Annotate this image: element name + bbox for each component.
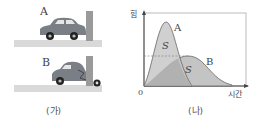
origin-label: 0 <box>138 88 143 97</box>
car-crash-illustration <box>0 0 130 127</box>
curve-a-label: A <box>174 22 181 33</box>
area-a-label: S <box>162 40 169 51</box>
y-axis-label: 힘 <box>130 8 137 19</box>
panel-ga: A B (가) <box>0 0 130 127</box>
area-b-label: S <box>185 64 192 75</box>
panel-na: 힘 A S B S 0 시간 (나) <box>130 0 265 127</box>
caption-ga: (가) <box>46 104 61 117</box>
wall-a <box>86 11 93 41</box>
ground-b <box>14 85 102 92</box>
wall-b <box>86 56 93 86</box>
car-b-crashed-icon <box>52 62 101 87</box>
car-a-label: A <box>40 5 48 18</box>
car-a-icon <box>40 18 86 40</box>
car-b-label: B <box>42 56 50 69</box>
caption-na: (나) <box>188 104 203 117</box>
curve-b-label: B <box>206 56 213 67</box>
ground-a <box>14 40 102 47</box>
x-axis-label: 시간 <box>228 88 242 99</box>
